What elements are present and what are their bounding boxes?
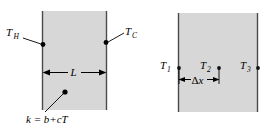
hot-face-leader-line <box>23 38 41 44</box>
node-2-label-subscript: 2 <box>207 65 211 74</box>
hot-face-label-subscript: H <box>13 32 20 41</box>
cold-face-leader-line <box>108 33 124 42</box>
hot-face-label: T <box>6 26 13 38</box>
node-2-label: T <box>200 59 207 71</box>
node-3-label-subscript: 3 <box>246 65 251 74</box>
node-1-label-subscript: 1 <box>167 65 171 74</box>
spacing-label-variable: x <box>198 74 204 86</box>
thickness-label: L <box>70 66 77 78</box>
cold-face-label-subscript: C <box>132 31 138 40</box>
node-1-label: T <box>160 59 167 71</box>
left-slab-body <box>42 11 107 110</box>
thermal-conduction-figure: T H T C L k = b+cT <box>0 0 273 134</box>
node-3-dot <box>256 66 260 70</box>
conductivity-label: k = b+cT <box>26 113 69 125</box>
left-slab-group: T H T C L k = b+cT <box>6 11 138 125</box>
node-3-label: T <box>240 59 247 71</box>
cold-face-label: T <box>125 25 132 37</box>
right-slab-group: T 1 T 2 T 3 Δ x <box>160 13 260 112</box>
hot-face-node-dot <box>41 42 46 47</box>
cold-face-node-dot <box>104 40 109 45</box>
figure-canvas: T H T C L k = b+cT <box>0 0 273 134</box>
